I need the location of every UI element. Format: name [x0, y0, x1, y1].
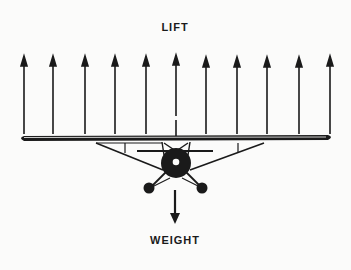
airplane-icon	[21, 135, 331, 194]
lift-arrow-icon	[82, 56, 88, 134]
lift-arrow-icon	[173, 55, 179, 138]
lift-arrow-icon	[50, 56, 56, 134]
lift-arrow-icon	[143, 56, 149, 134]
lift-arrow-icon	[234, 57, 240, 134]
lift-arrow-icon	[264, 57, 270, 134]
lift-arrow-icon	[203, 57, 209, 134]
lift-arrows	[21, 55, 333, 138]
lift-arrow-icon	[21, 56, 27, 134]
lift-arrow-icon	[296, 57, 302, 134]
airplane-forces-diagram	[0, 0, 351, 270]
weight-label: WEIGHT	[140, 234, 210, 246]
lift-arrow-icon	[112, 56, 118, 134]
weight-arrow-icon	[170, 190, 180, 224]
lift-arrow-icon	[327, 56, 333, 134]
